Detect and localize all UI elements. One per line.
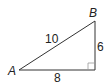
vertex-label-a: A xyxy=(7,64,16,78)
triangle-diagram: A B 10 6 8 xyxy=(0,0,110,83)
side-label-horizontal: 8 xyxy=(54,71,61,83)
side-label-hypotenuse: 10 xyxy=(45,32,59,46)
right-angle-marker xyxy=(88,63,95,70)
side-label-vertical: 6 xyxy=(97,40,104,54)
vertex-label-b: B xyxy=(89,6,97,20)
